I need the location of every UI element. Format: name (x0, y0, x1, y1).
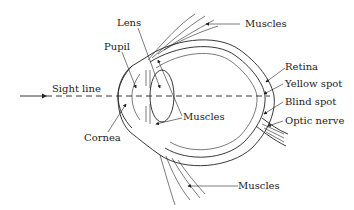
label-muscles-inner: Muscles (183, 112, 225, 122)
label-optic-nerve: Optic nerve (285, 116, 344, 126)
label-cornea: Cornea (84, 133, 121, 143)
label-muscles-bottom: Muscles (238, 181, 280, 191)
optic-nerve (256, 118, 288, 146)
muscles-top (148, 14, 218, 60)
pointer-lines (108, 24, 285, 186)
label-sight-line: Sight line (52, 84, 101, 94)
label-yellow-spot: Yellow spot (285, 79, 342, 89)
label-blind-spot: Blind spot (285, 97, 336, 107)
iris (132, 70, 150, 124)
muscles-bottom (160, 155, 205, 205)
label-pupil: Pupil (104, 42, 130, 52)
label-retina: Retina (285, 62, 318, 72)
eyeball-outline (118, 40, 274, 166)
eye-diagram: Lens Pupil Sight line Cornea Muscles Mus… (0, 0, 354, 210)
label-muscles-top: Muscles (245, 19, 287, 29)
label-lens: Lens (117, 18, 141, 28)
